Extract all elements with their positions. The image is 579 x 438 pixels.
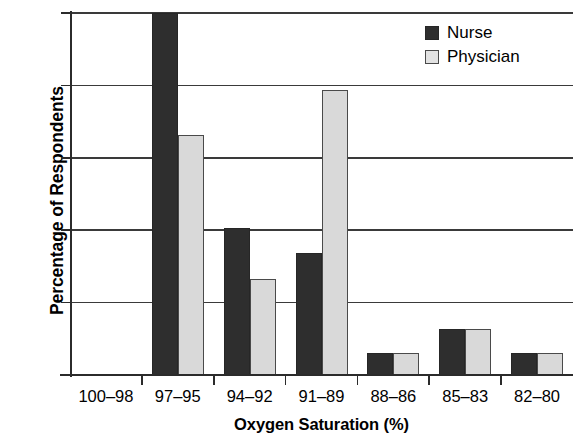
bar-chart: Percentage of Respondents 01020304050 10… bbox=[0, 0, 579, 438]
legend-swatch-physician-icon bbox=[425, 50, 439, 64]
bar-nurse-85–83 bbox=[439, 329, 465, 375]
legend-item-nurse: Nurse bbox=[425, 24, 520, 41]
x-tick-mark-6 bbox=[500, 376, 502, 385]
x-tick-mark-1 bbox=[141, 376, 143, 385]
x-tick-label-88–86: 88–86 bbox=[357, 388, 429, 405]
x-tick-mark-2 bbox=[213, 376, 215, 385]
bar-physician-94–92 bbox=[250, 279, 276, 375]
y-tick-mark-20 bbox=[61, 229, 70, 231]
y-axis-line bbox=[70, 11, 72, 377]
x-tick-label-94–92: 94–92 bbox=[214, 388, 286, 405]
y-tick-mark-50 bbox=[61, 12, 70, 14]
legend-swatch-nurse-icon bbox=[425, 26, 439, 40]
x-axis-title: Oxygen Saturation (%) bbox=[70, 415, 573, 434]
bar-nurse-94–92 bbox=[224, 228, 250, 375]
y-tick-mark-10 bbox=[61, 302, 70, 304]
x-tick-label-100–98: 100–98 bbox=[70, 388, 142, 405]
bar-nurse-82–80 bbox=[511, 353, 537, 375]
legend-item-physician: Physician bbox=[425, 48, 520, 65]
x-tick-mark-3 bbox=[285, 376, 287, 385]
x-tick-mark-5 bbox=[428, 376, 430, 385]
legend-label-nurse: Nurse bbox=[447, 24, 492, 41]
x-tick-label-85–83: 85–83 bbox=[429, 388, 501, 405]
chart-legend: Nurse Physician bbox=[425, 24, 520, 65]
y-tick-mark-30 bbox=[61, 157, 70, 159]
bar-physician-82–80 bbox=[537, 353, 563, 375]
y-tick-mark-40 bbox=[61, 85, 70, 87]
x-tick-label-97–95: 97–95 bbox=[142, 388, 214, 405]
x-tick-mark-4 bbox=[357, 376, 359, 385]
legend-label-physician: Physician bbox=[447, 48, 520, 65]
x-tick-label-91–89: 91–89 bbox=[286, 388, 358, 405]
bar-physician-97–95 bbox=[178, 135, 204, 375]
bar-nurse-91–89 bbox=[296, 253, 322, 375]
bar-physician-85–83 bbox=[465, 329, 491, 375]
bar-physician-88–86 bbox=[393, 353, 419, 375]
bar-nurse-88–86 bbox=[367, 353, 393, 375]
bar-nurse-97–95 bbox=[152, 13, 178, 375]
bar-physician-91–89 bbox=[322, 90, 348, 375]
bars-layer bbox=[70, 13, 573, 375]
x-axis-line bbox=[60, 374, 573, 376]
x-tick-label-82–80: 82–80 bbox=[501, 388, 573, 405]
